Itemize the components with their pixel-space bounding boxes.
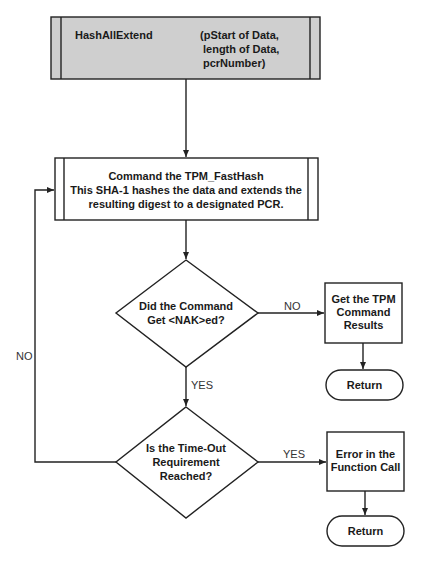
start-box-param-1: (pStart of Data,	[200, 29, 279, 42]
start-box-param-2: length of Data,	[203, 43, 279, 56]
process-box-line-3: resulting digest to a designated PCR.	[64, 198, 308, 211]
start-box-shape	[51, 17, 320, 79]
decision-2-no-label: NO	[16, 350, 33, 363]
decision-2-line-1: Is the Time-Out	[136, 442, 236, 455]
decision-2-line-3: Reached?	[136, 470, 236, 483]
decision-1-line-2: Get <NAK>ed?	[136, 314, 236, 327]
result-box-line-2: Command	[325, 306, 402, 319]
return-2-label: Return	[327, 525, 404, 538]
process-box-line-1: Command the TPM_FastHash	[64, 170, 308, 183]
clipped-caption	[20, 553, 270, 563]
result-box-line-3: Results	[325, 319, 402, 332]
error-box-line-2: Function Call	[327, 461, 404, 474]
start-box-function-name: HashAllExtend	[75, 29, 153, 42]
decision-1-line-1: Did the Command	[136, 300, 236, 313]
decision-1-yes-label: YES	[191, 379, 213, 392]
process-box-line-2: This SHA-1 hashes the data and extends t…	[64, 184, 308, 197]
decision-2-line-2: Requirement	[136, 456, 236, 469]
return-1-label: Return	[326, 379, 403, 392]
decision-2-yes-label: YES	[283, 448, 305, 461]
start-box-param-3: pcrNumber)	[203, 57, 265, 70]
decision-1-no-label: NO	[284, 300, 301, 313]
error-box-line-1: Error in the	[327, 448, 404, 461]
result-box-line-1: Get the TPM	[325, 293, 402, 306]
